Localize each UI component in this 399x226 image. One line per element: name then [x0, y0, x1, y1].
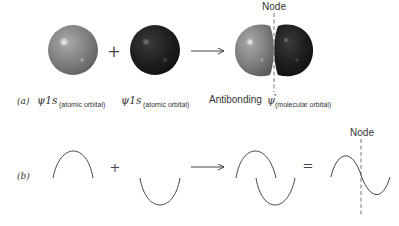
- orbital-1-psi: ψ1s: [37, 94, 58, 106]
- panel-b: (b) + = Node: [17, 127, 390, 217]
- orbital-2-psi: ψ1s: [121, 94, 142, 106]
- wave-combined-arch: [236, 151, 276, 178]
- wave-antibonding-result: [331, 156, 390, 195]
- atomic-orbital-sphere-negative: [130, 25, 180, 75]
- panel-label-a: (a): [17, 96, 30, 106]
- result-subscript: (molecular orbital): [275, 101, 331, 109]
- orbital-2-subscript: (atomic orbital): [143, 101, 189, 109]
- equals-operator-b: =: [303, 158, 314, 173]
- wave-combined-trough: [256, 178, 295, 205]
- antibonding-lobe-positive: [235, 25, 274, 77]
- wave-positive-arch: [53, 151, 93, 178]
- panel-label-b: (b): [17, 171, 30, 181]
- node-label-b: Node: [350, 127, 374, 138]
- result-superscript: *: [274, 93, 277, 99]
- antibonding-lobe-negative: [274, 25, 313, 77]
- plus-operator-a: +: [107, 42, 120, 61]
- wave-negative-trough: [140, 178, 180, 205]
- panel-a: + Node (a) ψ1s (atomic orbital) ψ1s (ato…: [17, 1, 331, 109]
- result-prefix: Antibonding: [209, 94, 262, 105]
- orbital-diagram: + Node (a) ψ1s (atomic orbital) ψ1s (ato…: [0, 0, 399, 226]
- plus-operator-b: +: [110, 160, 121, 175]
- atomic-orbital-sphere-positive: [48, 25, 98, 75]
- node-label-a: Node: [262, 1, 286, 12]
- orbital-1-subscript: (atomic orbital): [59, 101, 105, 109]
